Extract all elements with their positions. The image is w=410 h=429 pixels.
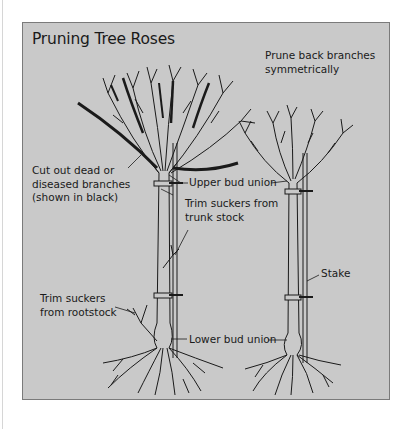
- page-edge-line: [2, 0, 3, 429]
- label-line: trunk stock: [185, 211, 278, 225]
- label-lower-bud-union: Lower bud union: [189, 333, 276, 347]
- label-line: Trim suckers from: [185, 197, 278, 211]
- label-upper-bud-union: Upper bud union: [189, 176, 277, 190]
- label-trim-rootstock: Trim suckers from rootstock: [40, 292, 117, 319]
- label-line: diseased branches: [32, 178, 130, 192]
- label-stake: Stake: [321, 267, 350, 281]
- label-line: symmetrically: [265, 63, 375, 77]
- label-line: Cut out dead or: [32, 164, 130, 178]
- label-line: Lower bud union: [189, 333, 276, 347]
- label-line: (shown in black): [32, 191, 130, 205]
- label-trim-trunk-stock: Trim suckers from trunk stock: [185, 197, 278, 224]
- label-line: Trim suckers: [40, 292, 117, 306]
- label-line: Upper bud union: [189, 176, 277, 190]
- pruned-tree: [239, 105, 353, 395]
- diagram-panel: Pruning Tree Roses Prune back branches s…: [22, 22, 390, 400]
- diagram-title: Pruning Tree Roses: [32, 30, 175, 48]
- label-line: from rootstock: [40, 306, 117, 320]
- label-cut-out-dead: Cut out dead or diseased branches (shown…: [32, 164, 130, 205]
- label-prune-back: Prune back branches symmetrically: [265, 49, 375, 76]
- label-line: Stake: [321, 267, 350, 281]
- label-line: Prune back branches: [265, 49, 375, 63]
